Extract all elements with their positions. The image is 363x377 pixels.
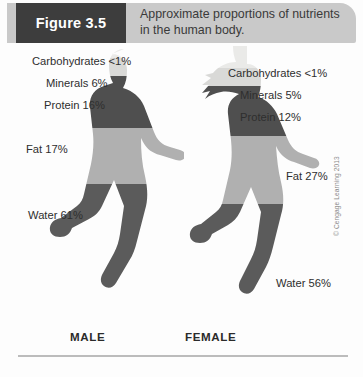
label-female-carbohydrates: Carbohydrates <1% [228, 67, 327, 79]
label-female-protein: Protein 12% [240, 111, 301, 123]
caption-male: MALE [70, 330, 105, 343]
figure-number-label: Figure 3.5 [36, 15, 107, 31]
label-female-water: Water 56% [276, 277, 331, 289]
label-male-protein: Protein 16% [44, 99, 105, 111]
figure-stage: Carbohydrates <1% Minerals 6% Protein 16… [0, 46, 363, 346]
band-male-water [34, 184, 184, 341]
label-male-fat: Fat 17% [26, 143, 68, 155]
band-female-water [185, 204, 335, 341]
figure-caption: Approximate proportions of nutrients in … [140, 7, 345, 38]
caption-female: FEMALE [185, 330, 236, 343]
male-nutrient-bands [34, 46, 184, 341]
label-male-minerals: Minerals 6% [46, 77, 108, 89]
band-male-fat [34, 128, 184, 184]
label-female-fat: Fat 27% [286, 170, 328, 182]
figure-number-tag: Figure 3.5 [16, 3, 126, 43]
label-male-carbohydrates: Carbohydrates <1% [32, 55, 131, 67]
bottom-divider-rule [18, 355, 348, 357]
band-female-carbohydrates [185, 46, 335, 68]
copyright-credit: © Cengage Learning 2013 [333, 156, 340, 236]
label-male-water: Water 61% [28, 209, 83, 221]
label-female-minerals: Minerals 5% [240, 89, 302, 101]
male-runner-silhouette [34, 46, 184, 341]
